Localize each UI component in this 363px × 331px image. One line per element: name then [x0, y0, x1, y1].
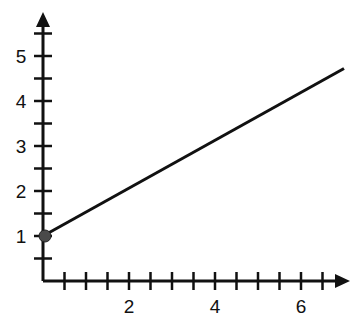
x-tick-label: 2 — [124, 296, 135, 317]
line-graph: 12345246 — [0, 0, 363, 331]
y-tick-label: 4 — [16, 91, 27, 112]
y-tick-label: 5 — [16, 46, 27, 67]
plot-line — [39, 69, 344, 243]
tick-labels: 12345246 — [16, 46, 307, 317]
start-point-marker — [39, 230, 51, 242]
y-tick-label: 1 — [16, 226, 27, 247]
x-tick-label: 4 — [210, 296, 221, 317]
y-axis-arrow-icon — [36, 12, 50, 27]
x-axis-arrow-icon — [335, 274, 350, 288]
series-line — [43, 69, 344, 237]
x-tick-label: 6 — [296, 296, 307, 317]
axes — [36, 12, 350, 288]
y-tick-label: 2 — [16, 181, 27, 202]
y-tick-label: 3 — [16, 136, 27, 157]
